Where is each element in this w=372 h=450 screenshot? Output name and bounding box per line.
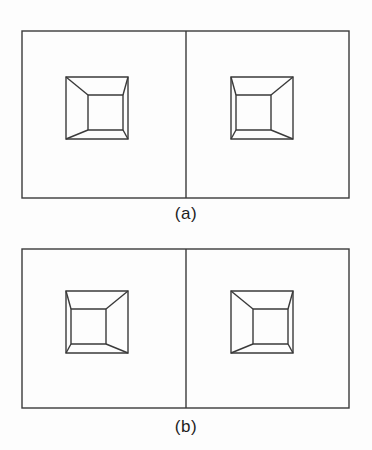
frustum-edge-top-right	[106, 291, 128, 309]
frustum-edge-top-right	[288, 291, 293, 309]
frustum-edge-bottom-left	[66, 130, 88, 139]
frustum-edge-bottom-left	[66, 344, 71, 353]
panel-a-caption: (a)	[0, 204, 372, 224]
frustum-edge-bottom-left	[231, 344, 253, 353]
panel-a	[22, 31, 349, 198]
panel-b-caption: (b)	[0, 417, 372, 437]
frustum-edge-bottom-right	[271, 130, 293, 139]
panel-b	[22, 249, 349, 408]
frustum-inner-square	[71, 309, 106, 344]
panel-a-cell-left	[66, 77, 128, 139]
frustum-edge-top-left	[231, 77, 236, 95]
frustum-edge-top-right	[123, 77, 128, 95]
frustum-edge-bottom-right	[106, 344, 128, 353]
frustum-edge-top-left	[231, 291, 253, 309]
panel-b-cell-right	[231, 291, 293, 353]
panel-b-cell-left	[66, 291, 128, 353]
panel-a-cell-right	[231, 77, 293, 139]
frustum-edge-bottom-right	[288, 344, 293, 353]
frustum-inner-square	[253, 309, 288, 344]
frustum-edge-top-left	[66, 291, 71, 309]
frustum-edge-bottom-left	[231, 130, 236, 139]
frustum-inner-square	[236, 95, 271, 130]
frustum-edge-top-right	[271, 77, 293, 95]
figure-page: (a) (b)	[0, 0, 372, 450]
frustum-inner-square	[88, 95, 123, 130]
frustum-edge-bottom-right	[123, 130, 128, 139]
figure-canvas	[0, 0, 372, 450]
frustum-edge-top-left	[66, 77, 88, 95]
